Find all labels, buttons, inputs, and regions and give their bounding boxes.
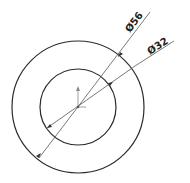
dimension-line-32[interactable] <box>47 66 135 128</box>
dimension-label-56[interactable]: Ø56 <box>123 10 145 35</box>
dimension-line-56[interactable] <box>39 12 150 158</box>
origin-point-icon <box>77 106 80 109</box>
origin-y-arrow-icon <box>76 86 80 91</box>
drawing-canvas: Ø56 Ø32 <box>0 0 190 183</box>
arrowhead-56-bottom <box>36 153 41 158</box>
dimension-label-32[interactable]: Ø32 <box>145 35 170 56</box>
